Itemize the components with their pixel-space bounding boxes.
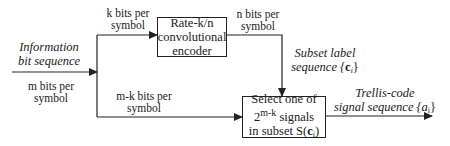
subset-label-arrow xyxy=(226,35,282,96)
encoder-output-rate: n bits per symbol xyxy=(232,8,284,32)
input-rate: m bits per symbol xyxy=(18,80,84,104)
convolutional-encoder-block: Rate-k/n convolutional encoder xyxy=(157,17,227,57)
bottom-branch-rate: m-k bits per symbol xyxy=(108,90,180,114)
subset-label-sequence: Subset label sequence {ci} xyxy=(290,46,360,78)
input-title: Information bit sequence xyxy=(14,40,84,68)
trellis-code-output: Trellis-code signal sequence {ai} xyxy=(330,86,440,118)
signal-selector-block: Select one of 2m-k signals in subset S(c… xyxy=(242,96,326,138)
top-branch-rate: k bits per symbol xyxy=(100,7,156,31)
